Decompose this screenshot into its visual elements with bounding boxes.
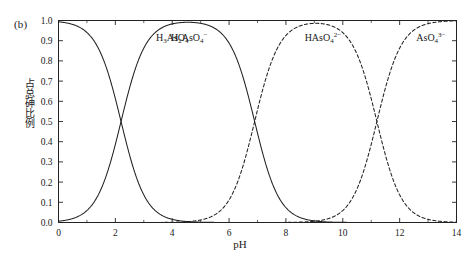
y-tick-label: 0.4 bbox=[41, 137, 53, 147]
x-tick-label: 12 bbox=[395, 228, 405, 238]
species-curves bbox=[59, 21, 457, 223]
x-tick-label: 2 bbox=[113, 228, 118, 238]
y-tick-label: 0.8 bbox=[41, 56, 53, 66]
x-tick-label: 8 bbox=[284, 228, 289, 238]
y-tick-label: 0.0 bbox=[41, 218, 53, 228]
x-tick-label: 14 bbox=[452, 228, 462, 238]
y-tick-label: 0.1 bbox=[41, 198, 53, 208]
y-tick-label: 1.0 bbox=[41, 16, 53, 26]
y-tick-label: 0.9 bbox=[41, 36, 53, 46]
x-tick-label: 6 bbox=[227, 228, 232, 238]
speciation-plot: 024681012140.00.10.20.30.40.50.60.70.80.… bbox=[0, 0, 466, 262]
curve-H3AsO4 bbox=[59, 22, 457, 223]
x-tick-label: 10 bbox=[338, 228, 348, 238]
curve-AsO43 bbox=[59, 21, 457, 223]
species-label-H2AsO4: H2AsO4− bbox=[171, 31, 208, 46]
species-label-HAsO42: HAsO42− bbox=[305, 31, 342, 46]
y-tick-label: 0.3 bbox=[41, 157, 53, 167]
figure-panel: (b) 占总砷比例 pH 024681012140.00.10.20.30.40… bbox=[0, 0, 466, 262]
axis-ticks bbox=[59, 21, 457, 223]
x-tick-label: 0 bbox=[56, 228, 61, 238]
y-tick-label: 0.6 bbox=[41, 97, 53, 107]
plot-frame bbox=[59, 21, 457, 223]
species-label-AsO43: AsO43− bbox=[416, 31, 445, 46]
x-tick-label: 4 bbox=[170, 228, 175, 238]
y-tick-label: 0.5 bbox=[41, 117, 53, 127]
curve-H2AsO4 bbox=[59, 22, 457, 222]
y-tick-label: 0.2 bbox=[41, 178, 53, 188]
axis-tick-labels: 024681012140.00.10.20.30.40.50.60.70.80.… bbox=[41, 16, 462, 238]
y-tick-label: 0.7 bbox=[41, 77, 53, 87]
